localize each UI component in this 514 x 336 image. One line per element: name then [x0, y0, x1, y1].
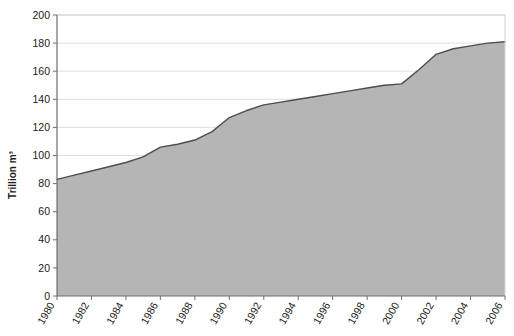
y-tick-label: 140: [32, 93, 50, 105]
y-tick-label: 200: [32, 9, 50, 21]
x-tick-label: 1992: [241, 300, 263, 326]
x-tick-label: 2000: [379, 300, 401, 326]
x-tick-label: 2004: [448, 300, 470, 326]
x-tick-label: 1996: [310, 300, 332, 326]
area-chart: 020406080100120140160180200 198019821984…: [0, 0, 514, 336]
x-tick-label: 1994: [276, 300, 298, 326]
x-tick-label: 2006: [483, 300, 505, 326]
y-tick-label: 80: [38, 177, 50, 189]
y-tick-label: 0: [44, 290, 50, 302]
y-tick-label: 20: [38, 262, 50, 274]
x-tick-label: 1980: [35, 300, 57, 326]
chart-container: 020406080100120140160180200 198019821984…: [0, 0, 514, 336]
y-tick-label: 100: [32, 149, 50, 161]
y-axis-ticks: 020406080100120140160180200: [32, 9, 57, 302]
x-tick-label: 1986: [138, 300, 160, 326]
y-axis-title: Trillion m³: [7, 150, 18, 198]
y-tick-label: 120: [32, 121, 50, 133]
x-tick-label: 1988: [173, 300, 195, 326]
y-tick-label: 160: [32, 65, 50, 77]
x-tick-label: 1984: [104, 300, 126, 326]
x-tick-label: 1982: [69, 300, 91, 326]
x-axis-ticks: 1980198219841986198819901992199419961998…: [35, 296, 505, 326]
x-tick-label: 1998: [345, 300, 367, 326]
x-tick-label: 1990: [207, 300, 229, 326]
x-tick-label: 2002: [414, 300, 436, 326]
y-tick-label: 60: [38, 205, 50, 217]
y-tick-label: 40: [38, 233, 50, 245]
y-tick-label: 180: [32, 37, 50, 49]
